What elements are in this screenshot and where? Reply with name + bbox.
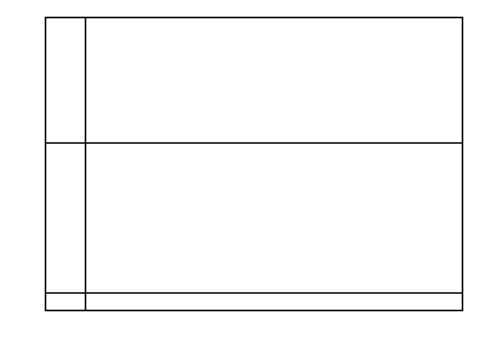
chart-canvas bbox=[0, 0, 481, 353]
daisyworld-figure bbox=[0, 0, 481, 353]
figure-outer-frame bbox=[46, 18, 463, 311]
